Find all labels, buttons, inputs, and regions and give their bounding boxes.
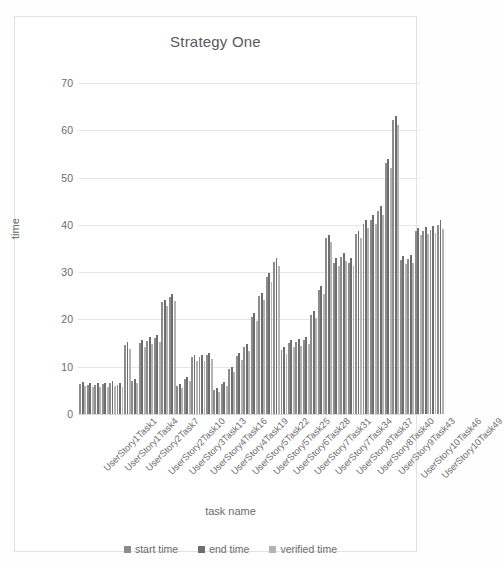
bar-group bbox=[407, 83, 414, 414]
bar-group bbox=[385, 83, 392, 414]
bar-group bbox=[370, 83, 377, 414]
y-tick-label: 70 bbox=[43, 77, 73, 89]
bar-group bbox=[265, 83, 272, 414]
bar-group bbox=[198, 83, 205, 414]
y-tick-label: 50 bbox=[43, 172, 73, 184]
legend-swatch-icon bbox=[124, 546, 131, 553]
bar-group bbox=[288, 83, 295, 414]
bar-group bbox=[273, 83, 280, 414]
y-tick-label: 0 bbox=[43, 408, 73, 420]
bar-group bbox=[94, 83, 101, 414]
bar-group bbox=[437, 83, 444, 414]
bar-group bbox=[139, 83, 146, 414]
bar-group bbox=[392, 83, 399, 414]
bar-group bbox=[355, 83, 362, 414]
chart-frame: Strategy One time 010203040506070 UserSt… bbox=[14, 16, 417, 552]
bar-group bbox=[183, 83, 190, 414]
bar-group bbox=[161, 83, 168, 414]
bar-group bbox=[422, 83, 429, 414]
bar-group bbox=[116, 83, 123, 414]
bar-group bbox=[429, 83, 436, 414]
bar-group bbox=[325, 83, 332, 414]
bar-series-container bbox=[78, 83, 420, 414]
y-tick-label: 40 bbox=[43, 219, 73, 231]
bar-group bbox=[176, 83, 183, 414]
x-axis-tick-labels: UserStory1Task1UserStory1Task4UserStory2… bbox=[78, 416, 420, 502]
bar-group bbox=[236, 83, 243, 414]
bar-group bbox=[295, 83, 302, 414]
legend-item[interactable]: verified time bbox=[269, 543, 337, 555]
y-axis-tick-labels: 010203040506070 bbox=[41, 83, 73, 414]
bar-group bbox=[206, 83, 213, 414]
y-tick-label: 20 bbox=[43, 313, 73, 325]
bar-group bbox=[414, 83, 421, 414]
plot-area bbox=[78, 83, 420, 414]
legend-swatch-icon bbox=[198, 546, 205, 553]
legend-label: end time bbox=[209, 543, 249, 555]
legend-item[interactable]: end time bbox=[198, 543, 249, 555]
y-tick-label: 10 bbox=[43, 361, 73, 373]
y-tick-label: 30 bbox=[43, 266, 73, 278]
legend-label: verified time bbox=[280, 543, 337, 555]
bar-group bbox=[221, 83, 228, 414]
bar-group bbox=[101, 83, 108, 414]
bar-group bbox=[79, 83, 86, 414]
legend-label: start time bbox=[135, 543, 178, 555]
bar-group bbox=[280, 83, 287, 414]
bar-group bbox=[332, 83, 339, 414]
y-tick-label: 60 bbox=[43, 124, 73, 136]
legend-item[interactable]: start time bbox=[124, 543, 178, 555]
bar-group bbox=[377, 83, 384, 414]
bar-group bbox=[303, 83, 310, 414]
bar-group bbox=[399, 83, 406, 414]
bar-group bbox=[243, 83, 250, 414]
bar-group bbox=[168, 83, 175, 414]
bar-verified-time bbox=[442, 229, 444, 414]
bar-group bbox=[318, 83, 325, 414]
bar-group bbox=[340, 83, 347, 414]
gridline-0 bbox=[78, 414, 420, 415]
bar-group bbox=[310, 83, 317, 414]
y-axis-title: time bbox=[9, 218, 21, 239]
bar-group bbox=[213, 83, 220, 414]
bar-group bbox=[258, 83, 265, 414]
bar-group bbox=[146, 83, 153, 414]
legend-swatch-icon bbox=[269, 546, 276, 553]
bar-group bbox=[124, 83, 131, 414]
bar-group bbox=[131, 83, 138, 414]
bar-group bbox=[191, 83, 198, 414]
bar-group bbox=[109, 83, 116, 414]
bar-group bbox=[228, 83, 235, 414]
chart-title: Strategy One bbox=[15, 33, 416, 50]
x-axis-title: task name bbox=[15, 505, 446, 517]
bar-group bbox=[250, 83, 257, 414]
bar-group bbox=[86, 83, 93, 414]
bar-group bbox=[154, 83, 161, 414]
chart-legend: start timeend timeverified time bbox=[15, 543, 446, 555]
bar-group bbox=[347, 83, 354, 414]
bar-group bbox=[362, 83, 369, 414]
